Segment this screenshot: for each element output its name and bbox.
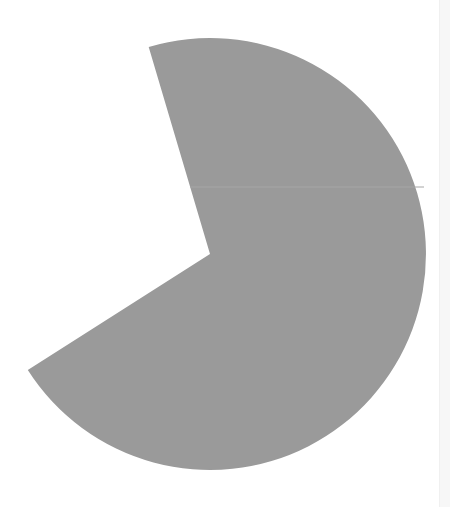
pie-slice — [28, 38, 426, 470]
pie-chart-svg — [0, 0, 440, 507]
vertical-scrollbar[interactable] — [439, 0, 450, 507]
pie-chart — [0, 0, 440, 507]
